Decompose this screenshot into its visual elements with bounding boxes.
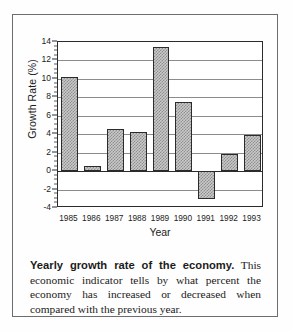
y-tick-label: 14	[42, 36, 51, 46]
figure-caption: Yearly growth rate of the economy. This …	[30, 258, 261, 316]
bar	[84, 166, 101, 172]
plot-area	[57, 41, 263, 207]
x-tick-label: 1986	[82, 213, 100, 223]
y-tick-label: 10	[42, 73, 51, 83]
x-tick-label: 1990	[174, 213, 192, 223]
y-tick-label: -2	[43, 184, 51, 194]
x-tick-label: 1988	[128, 213, 146, 223]
x-axis-label: Year	[57, 226, 263, 238]
y-tick-label: 4	[46, 128, 51, 138]
bar	[198, 171, 215, 199]
bar	[107, 129, 124, 171]
bar-chart: Growth Rate (%) 14121086420-2-4 19851986…	[13, 19, 277, 251]
x-tick-label: 1987	[105, 213, 123, 223]
x-tick-label: 1993	[242, 213, 260, 223]
y-tick-label: 12	[42, 54, 51, 64]
bar	[153, 47, 170, 172]
caption-lead: Yearly growth rate of the economy.	[30, 259, 234, 271]
x-tick-label: 1989	[151, 213, 169, 223]
y-tick-label: 2	[46, 147, 51, 157]
x-tick-label: 1985	[59, 213, 77, 223]
y-tick-label: -4	[43, 202, 51, 212]
y-axis-ticks: 14121086420-2-4	[13, 19, 57, 251]
bar	[130, 132, 147, 171]
y-tick-label: 0	[46, 165, 51, 175]
x-tick-label: 1992	[219, 213, 237, 223]
y-tick-label: 8	[46, 91, 51, 101]
bar	[244, 135, 261, 171]
bar	[221, 154, 238, 172]
bar-series	[58, 42, 262, 206]
bar	[175, 102, 192, 171]
x-tick-label: 1991	[197, 213, 215, 223]
bar	[61, 77, 78, 171]
figure-frame: Growth Rate (%) 14121086420-2-4 19851986…	[12, 14, 278, 317]
y-tick-label: 6	[46, 110, 51, 120]
